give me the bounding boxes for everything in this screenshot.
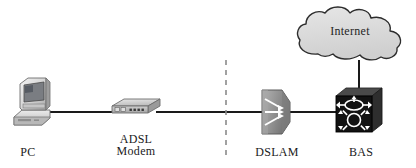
desktop-computer-icon xyxy=(14,78,50,125)
node-label-pc: PC xyxy=(2,146,54,158)
multiplexer-icon xyxy=(262,90,290,134)
node-label-dslam: DSLAM xyxy=(246,146,308,158)
network-diagram: PC ADSL Modem DSLAM BAS Internet xyxy=(0,0,416,168)
node-label-adsl-modem: ADSL Modem xyxy=(98,133,174,157)
router-icon xyxy=(336,88,382,132)
modem-icon xyxy=(112,99,160,113)
node-label-bas: BAS xyxy=(330,146,392,158)
node-label-internet: Internet xyxy=(312,24,388,39)
